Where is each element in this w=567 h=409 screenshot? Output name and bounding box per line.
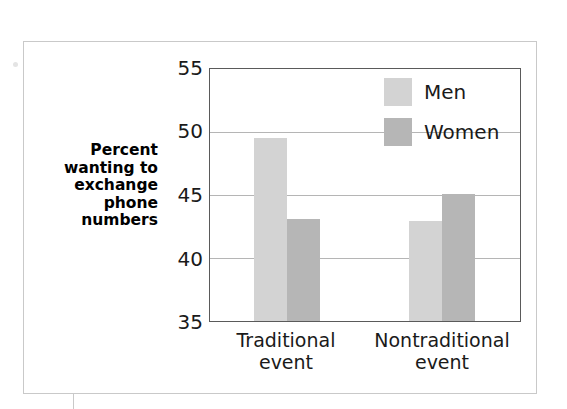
legend: Men Women: [384, 75, 514, 155]
x-tick-label-line: event: [196, 351, 376, 373]
y-tick-label-55: 55: [163, 58, 203, 78]
x-tick-label-line: event: [352, 351, 532, 373]
plot-area: Men Women: [209, 68, 521, 322]
x-tick-label-line: Nontraditional: [352, 329, 532, 351]
legend-swatch-women-icon: [384, 118, 412, 146]
x-tick-label-nontraditional: Nontraditional event: [352, 329, 532, 373]
x-tick-label-traditional: Traditional event: [196, 329, 376, 373]
legend-swatch-men-icon: [384, 78, 412, 106]
bar-women-traditional: [287, 219, 320, 321]
bar-men-nontraditional: [409, 221, 442, 321]
legend-entry-women: Women: [384, 115, 514, 149]
x-tick-label-line: Traditional: [196, 329, 376, 351]
figure-frame-tick: [73, 394, 74, 409]
y-axis-title-line: Percent: [18, 142, 158, 160]
y-axis-title: Percent wanting to exchange phone number…: [18, 142, 158, 230]
legend-label-women: Women: [424, 122, 499, 142]
y-tick-label-45: 45: [163, 185, 203, 205]
legend-label-men: Men: [424, 82, 466, 102]
legend-entry-men: Men: [384, 75, 514, 109]
y-tick-label-50: 50: [163, 121, 203, 141]
y-axis-title-line: numbers: [18, 212, 158, 230]
y-axis-title-line: phone: [18, 195, 158, 213]
y-tick-label-40: 40: [163, 249, 203, 269]
y-axis-title-line: exchange: [18, 177, 158, 195]
bar-men-traditional: [254, 138, 287, 321]
scan-speck: [13, 62, 18, 67]
y-axis-title-line: wanting to: [18, 160, 158, 178]
bar-women-nontraditional: [442, 194, 475, 321]
